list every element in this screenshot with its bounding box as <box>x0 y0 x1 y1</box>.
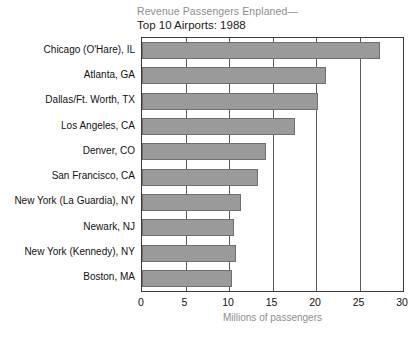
plot-area <box>141 37 404 292</box>
x-axis-title: Millions of passengers <box>141 312 404 323</box>
bar <box>142 219 234 236</box>
bar-row <box>142 38 403 63</box>
category-label: New York (Kennedy), NY <box>0 246 135 258</box>
bar <box>142 67 326 84</box>
category-label: Chicago (O'Hare), IL <box>0 44 135 56</box>
x-tick-label: 10 <box>222 296 234 309</box>
bar-row <box>142 165 403 190</box>
bar <box>142 194 241 211</box>
category-label: Atlanta, GA <box>0 69 135 81</box>
bar-row <box>142 114 403 139</box>
bar <box>142 143 266 160</box>
bar <box>142 169 258 186</box>
bar-row <box>142 215 403 240</box>
bar-row <box>142 266 403 291</box>
bar-row <box>142 139 403 164</box>
bar <box>142 245 236 262</box>
x-tick-label: 15 <box>266 296 278 309</box>
category-label: Newark, NJ <box>0 221 135 233</box>
chart-title-block: Revenue Passengers Enplaned— Top 10 Airp… <box>137 5 412 32</box>
bar-row <box>142 89 403 114</box>
x-axis-tick-labels: 051015202530 <box>141 296 404 310</box>
category-label: New York (La Guardia), NY <box>0 195 135 207</box>
bars-layer <box>142 38 403 291</box>
bar <box>142 93 318 110</box>
bar <box>142 118 295 135</box>
category-label: Boston, MA <box>0 271 135 283</box>
x-tick-label: 0 <box>138 296 144 309</box>
x-tick-label: 20 <box>309 296 321 309</box>
chart-title: Revenue Passengers Enplaned— <box>137 5 412 18</box>
bar <box>142 270 232 287</box>
category-label: Los Angeles, CA <box>0 120 135 132</box>
category-label: Denver, CO <box>0 145 135 157</box>
bar-row <box>142 63 403 88</box>
x-tick-label: 30 <box>396 296 408 309</box>
category-label: San Francisco, CA <box>0 170 135 182</box>
bar-row <box>142 240 403 265</box>
x-tick-label: 25 <box>353 296 365 309</box>
chart-subtitle: Top 10 Airports: 1988 <box>137 18 412 32</box>
bar-row <box>142 190 403 215</box>
category-label: Dallas/Ft. Worth, TX <box>0 94 135 106</box>
chart-figure: Revenue Passengers Enplaned— Top 10 Airp… <box>0 0 420 337</box>
y-axis-category-labels: Chicago (O'Hare), ILAtlanta, GADallas/Ft… <box>0 37 135 292</box>
x-tick-label: 5 <box>182 296 188 309</box>
bar <box>142 42 380 59</box>
